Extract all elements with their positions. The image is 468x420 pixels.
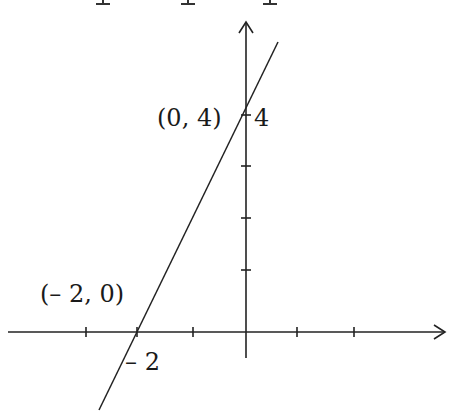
point-label-x-intercept: (– 2, 0) bbox=[40, 280, 124, 308]
cropped-text-fragment bbox=[96, 0, 277, 5]
x-axis bbox=[8, 325, 445, 339]
tick-label-y-4: 4 bbox=[254, 104, 269, 132]
y-axis bbox=[239, 22, 253, 358]
point-label-y-intercept: (0, 4) bbox=[157, 104, 222, 132]
line-graph: (0, 4) 4 (– 2, 0) – 2 bbox=[0, 0, 468, 420]
tick-label-x-minus2: – 2 bbox=[125, 348, 160, 376]
